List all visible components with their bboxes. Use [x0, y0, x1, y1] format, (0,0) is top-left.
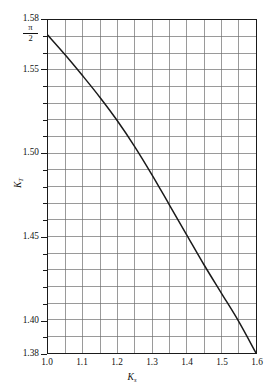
y-axis-minor-tick — [43, 86, 47, 87]
y-axis-minor-tick — [43, 120, 47, 121]
y-axis-minor-tick — [43, 136, 47, 137]
x-axis-title-subscript: s — [134, 376, 137, 383]
pi-symbol: π — [22, 23, 39, 32]
y-axis-minor-tick — [43, 337, 47, 338]
y-axis-tick-label: 1.40 — [0, 316, 39, 325]
y-axis-tick-label: 1.45 — [0, 232, 39, 241]
x-axis-tick-label: 1.3 — [137, 358, 167, 367]
y-axis-major-tick — [41, 153, 47, 154]
x-axis-title-main: K — [128, 372, 134, 382]
x-axis-tick-label: 1.1 — [67, 358, 97, 367]
x-axis-tick-label: 1.5 — [207, 358, 237, 367]
y-axis-minor-tick — [43, 203, 47, 204]
pi-over-two-label: π 2 — [22, 23, 39, 42]
y-axis-minor-tick — [43, 254, 47, 255]
y-axis-minor-tick — [43, 36, 47, 37]
y-axis-major-tick — [41, 354, 47, 355]
y-axis-major-tick — [41, 19, 47, 20]
y-axis-major-tick — [41, 321, 47, 322]
y-axis-minor-tick — [43, 103, 47, 104]
x-axis-title: Ks — [0, 372, 264, 382]
y-axis-title: KT — [13, 170, 23, 196]
y-axis-title-main: K — [13, 182, 23, 188]
y-axis-major-tick — [41, 69, 47, 70]
chart-figure: 1.581.551.501.451.401.38 π 2 1.01.11.21.… — [0, 0, 264, 390]
plot-area — [47, 19, 257, 354]
y-axis-minor-tick — [43, 220, 47, 221]
y-axis-tick-label: 1.58 — [0, 14, 39, 23]
y-axis-minor-tick — [43, 304, 47, 305]
y-axis-minor-tick — [43, 170, 47, 171]
y-axis-major-tick — [41, 237, 47, 238]
y-axis-tick-label: 1.55 — [0, 65, 39, 74]
fraction-denominator: 2 — [22, 34, 39, 43]
y-axis-minor-tick — [43, 270, 47, 271]
y-axis-title-subscript: T — [17, 178, 24, 182]
y-axis-tick-label: 1.50 — [0, 148, 39, 157]
y-axis-minor-tick — [43, 187, 47, 188]
y-axis-minor-tick — [43, 287, 47, 288]
y-axis-minor-tick — [43, 53, 47, 54]
data-curve — [48, 20, 256, 353]
x-axis-tick-label: 1.0 — [32, 358, 62, 367]
x-axis-tick-label: 1.4 — [172, 358, 202, 367]
x-axis-tick-label: 1.2 — [102, 358, 132, 367]
x-axis-tick-label: 1.6 — [242, 358, 264, 367]
